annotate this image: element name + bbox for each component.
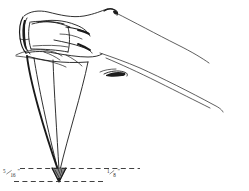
second-finger-accent xyxy=(78,44,90,50)
pencil-barrel xyxy=(29,21,70,52)
hand-lower-edge xyxy=(100,53,223,112)
pencil-wood-cone xyxy=(27,56,88,170)
cone-shoulder-arc xyxy=(27,56,88,63)
dimension-label-right: 1 8 " xyxy=(107,168,121,179)
knuckle-crease xyxy=(100,69,116,72)
barrel-shoulder xyxy=(68,27,70,52)
thumbnail-shadow xyxy=(22,20,27,51)
right-numerator: 1 xyxy=(107,168,110,174)
dimension-guides xyxy=(14,169,140,182)
pencil-sharpening-figure: Hand holding sharpened pencil with point… xyxy=(0,0,249,191)
barrel-end-cap xyxy=(29,22,31,49)
barrel-facet-line xyxy=(33,45,68,47)
hand-top-contour xyxy=(24,9,116,17)
thumb-web-lower xyxy=(16,56,66,67)
hand-back-edge xyxy=(116,13,209,63)
dimension-label-left: 5 16 " xyxy=(3,168,21,179)
pencil-graphite-tip xyxy=(52,168,66,182)
palm-lower-edge xyxy=(26,52,102,58)
left-numerator: 5 xyxy=(3,168,6,174)
finger-fold xyxy=(60,34,82,39)
figure-canvas: Hand holding sharpened pencil with point… xyxy=(0,0,249,191)
index-finger-top xyxy=(38,20,90,36)
cone-right-edge xyxy=(60,62,88,170)
cone-facet-left xyxy=(34,58,58,170)
middle-knuckle-shadow xyxy=(106,72,125,77)
right-unit: " xyxy=(118,168,121,174)
right-denominator: 8 xyxy=(113,172,116,178)
finger-lower-edge xyxy=(106,58,210,108)
left-denominator: 16 xyxy=(10,172,16,178)
